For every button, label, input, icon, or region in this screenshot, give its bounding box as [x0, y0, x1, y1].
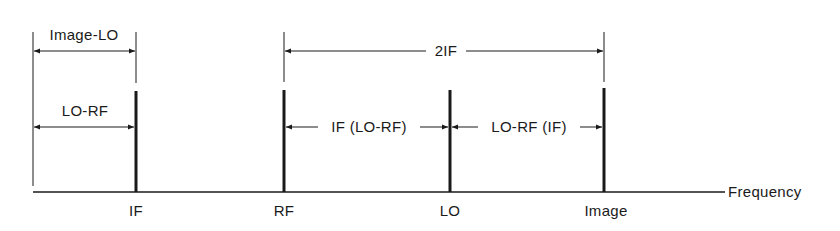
dimension-label-lo-rf-if: LO-RF (IF)	[491, 118, 567, 135]
signal-label-image: Image	[584, 202, 627, 219]
dimension-label-lo-rf: LO-RF	[62, 102, 109, 119]
signal-image: Image	[584, 88, 627, 219]
frequency-spectrum-diagram: Frequency IF RF LO Image Image-LO LO-RF …	[0, 0, 840, 231]
dimension-image-lo: Image-LO	[34, 26, 135, 51]
signal-rf: RF	[274, 90, 295, 219]
signal-lo: LO	[440, 90, 461, 219]
signal-label-lo: LO	[440, 202, 461, 219]
dimension-label-image-lo: Image-LO	[49, 26, 118, 43]
dimension-if-lo-rf: IF (LO-RF)	[286, 118, 448, 135]
signal-if: IF	[129, 91, 143, 219]
dimension-lo-rf-left: LO-RF	[34, 102, 134, 127]
frequency-axis: Frequency	[33, 183, 802, 200]
signal-label-rf: RF	[274, 202, 295, 219]
signal-label-if: IF	[129, 202, 143, 219]
dimension-lo-rf-if: LO-RF (IF)	[452, 118, 602, 135]
dimension-2if: 2IF	[285, 42, 603, 59]
dimension-label-2if: 2IF	[435, 42, 458, 59]
dimension-label-if-lo-rf: IF (LO-RF)	[331, 118, 407, 135]
axis-label-frequency: Frequency	[728, 183, 802, 200]
